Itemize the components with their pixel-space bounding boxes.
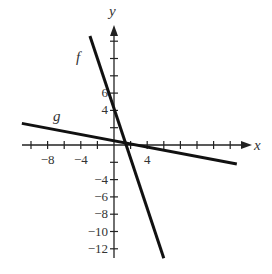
- coordinate-plane: −8−4464−4−6−8−10−12 f g x y: [0, 0, 272, 274]
- x-tick-label: −4: [74, 152, 88, 167]
- y-tick-label: −8: [94, 206, 108, 221]
- label-f: f: [76, 49, 82, 65]
- y-tick-label: 4: [102, 102, 109, 117]
- y-tick-label: −10: [88, 224, 108, 239]
- y-axis-arrow-icon: [110, 25, 118, 36]
- axes: [22, 25, 252, 258]
- x-tick-label: −8: [41, 152, 55, 167]
- x-tick-label: 4: [144, 152, 151, 167]
- y-tick-label: −4: [94, 172, 108, 187]
- x-axis-label: x: [253, 137, 261, 153]
- label-g: g: [53, 108, 61, 124]
- y-tick-label: −12: [88, 241, 108, 256]
- y-axis-label: y: [107, 3, 116, 19]
- x-axis-arrow-icon: [241, 141, 252, 149]
- y-tick-label: −6: [94, 189, 108, 204]
